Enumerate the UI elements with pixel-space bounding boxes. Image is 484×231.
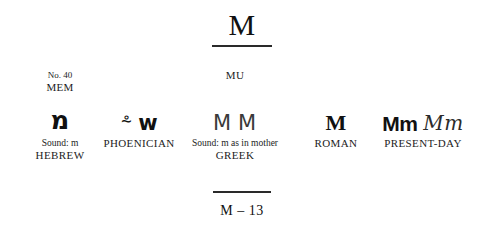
title-divider	[212, 45, 272, 47]
greek-glyph-row: Μ Μ	[168, 96, 302, 134]
greek-sound-label: Sound: m as in mother	[168, 138, 302, 150]
greek-mu-glyph-second: Μ	[238, 113, 257, 134]
present-day-bottom-caption: PRESENT-DAY	[366, 138, 480, 150]
present-day-system-label: PRESENT-DAY	[366, 138, 480, 150]
phoenician-mem-glyph-small: ⸛	[121, 112, 132, 131]
column-greek: MU Μ Μ Sound: m as in mother GREEK	[168, 70, 302, 161]
greek-mu-glyph-first: Μ	[213, 113, 232, 134]
greek-bottom-caption: Sound: m as in mother GREEK	[168, 138, 302, 161]
letter-evolution-row: No. 40 MEM מ Sound: m HEBREW ⸛ ᴡ	[0, 70, 484, 170]
page-number-label: M – 13	[0, 203, 484, 219]
column-roman: M ROMAN	[300, 70, 372, 150]
footer-divider	[213, 191, 271, 193]
roman-system-label: ROMAN	[300, 138, 372, 150]
present-day-glyph-row: Mm Mm	[366, 96, 480, 134]
greek-system-label: GREEK	[168, 150, 302, 162]
present-day-cursive-glyph: Mm	[423, 113, 463, 133]
phoenician-mem-glyph-large: ᴡ	[138, 113, 156, 134]
roman-m-glyph: M	[326, 112, 347, 134]
column-present-day: Mm Mm PRESENT-DAY	[366, 70, 480, 150]
alphabet-history-page: M No. 40 MEM מ Sound: m HEBREW	[0, 0, 484, 231]
present-day-print-glyph: Mm	[382, 113, 417, 134]
greek-top-caption: MU	[168, 70, 302, 94]
greek-letter-name: MU	[168, 70, 302, 82]
title-block: M	[0, 8, 484, 47]
page-title: M	[0, 8, 484, 42]
roman-bottom-caption: ROMAN	[300, 138, 372, 150]
roman-glyph-row: M	[300, 96, 372, 134]
hebrew-mem-glyph: מ	[51, 107, 70, 133]
hebrew-system-label: HEBREW	[4, 150, 116, 162]
footer-block: M – 13	[0, 191, 484, 219]
